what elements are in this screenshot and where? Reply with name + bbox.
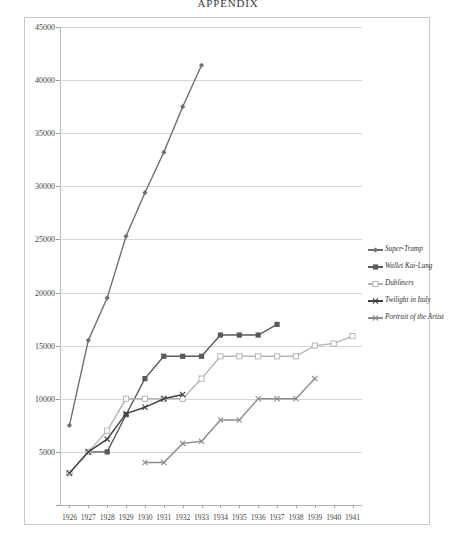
legend-swatch-icon xyxy=(368,265,383,269)
data-point-marker xyxy=(105,295,110,300)
data-point-marker xyxy=(312,376,317,381)
data-point-marker xyxy=(199,354,204,359)
data-point-marker xyxy=(373,247,378,252)
data-point-marker xyxy=(350,334,355,339)
series-line xyxy=(145,379,315,463)
data-point-marker xyxy=(142,376,147,381)
data-point-marker xyxy=(256,332,261,337)
series-line xyxy=(69,336,352,473)
data-point-marker xyxy=(161,354,166,359)
legend-item[interactable]: Portrait of the Artist xyxy=(368,309,454,326)
legend-item[interactable]: Dubliners xyxy=(368,275,454,292)
data-point-marker xyxy=(105,437,110,442)
data-point-marker xyxy=(105,428,110,433)
data-point-marker xyxy=(180,104,185,109)
data-point-marker xyxy=(86,338,91,343)
data-point-marker xyxy=(274,322,279,327)
data-point-marker xyxy=(293,354,298,359)
legend-label: Dubliners xyxy=(385,280,414,287)
data-point-marker xyxy=(123,234,128,239)
legend-swatch-icon xyxy=(368,282,383,286)
data-point-marker xyxy=(161,150,166,155)
data-point-marker xyxy=(256,354,261,359)
data-point-marker xyxy=(237,354,242,359)
data-point-marker xyxy=(180,354,185,359)
series-4 xyxy=(142,376,317,465)
legend-swatch-icon xyxy=(368,299,383,303)
data-point-marker xyxy=(373,281,378,286)
series-2 xyxy=(67,334,355,476)
legend-label: Portrait of the Artist xyxy=(385,314,444,321)
data-point-marker xyxy=(373,298,378,303)
series-line xyxy=(69,65,201,425)
data-point-marker xyxy=(199,376,204,381)
legend-swatch-icon xyxy=(368,316,383,320)
data-point-marker xyxy=(199,63,204,68)
legend-label: Super-Tramp xyxy=(385,246,423,253)
legend-item[interactable]: Super-Tramp xyxy=(368,241,454,258)
legend-item[interactable]: Twilight in Italy xyxy=(368,292,454,309)
series-0 xyxy=(67,63,204,428)
data-point-marker xyxy=(373,315,378,320)
data-point-marker xyxy=(331,341,336,346)
data-point-marker xyxy=(142,190,147,195)
legend-item[interactable]: Wallet Kai-Lung xyxy=(368,258,454,275)
data-point-marker xyxy=(67,423,72,428)
data-point-marker xyxy=(218,332,223,337)
legend-label: Twilight in Italy xyxy=(385,297,431,304)
data-point-marker xyxy=(142,396,147,401)
data-point-marker xyxy=(274,354,279,359)
data-point-marker xyxy=(105,449,110,454)
series-3 xyxy=(67,392,185,476)
legend-swatch-icon xyxy=(368,248,383,252)
legend-label: Wallet Kai-Lung xyxy=(385,263,432,270)
data-point-marker xyxy=(218,354,223,359)
data-point-marker xyxy=(312,343,317,348)
data-point-marker xyxy=(237,332,242,337)
chart-page: APPENDIX 5000100001500020000250003000035… xyxy=(0,0,456,549)
data-point-marker xyxy=(373,264,378,269)
chart-legend: Super-TrampWallet Kai-LungDublinersTwili… xyxy=(368,241,454,326)
data-point-marker xyxy=(123,396,128,401)
